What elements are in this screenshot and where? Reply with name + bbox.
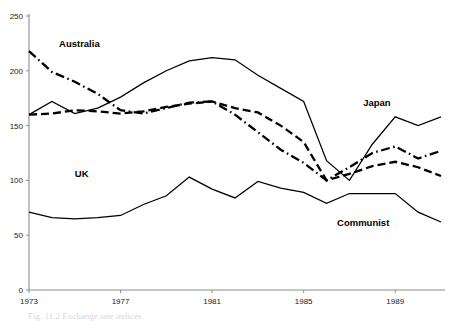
x-tick-label: 1981 xyxy=(203,297,221,306)
y-tick-label: 150 xyxy=(10,122,24,131)
x-tick-label: 1973 xyxy=(20,297,38,306)
x-tick-label: 1977 xyxy=(112,297,130,306)
series-label-communist: Communist xyxy=(337,217,390,228)
y-tick-label: 100 xyxy=(10,176,24,185)
y-tick-label: 50 xyxy=(14,231,23,240)
series-line-communist xyxy=(29,177,441,222)
y-tick-label: 250 xyxy=(10,12,24,21)
series-line-uk xyxy=(29,101,441,180)
series-label-australia: Australia xyxy=(59,38,100,49)
chart-container: 05010015020025019731977198119851989Japan… xyxy=(0,0,450,321)
series-label-japan: Japan xyxy=(363,97,391,108)
line-chart: 05010015020025019731977198119851989Japan… xyxy=(0,0,450,321)
y-tick-label: 200 xyxy=(10,67,24,76)
series-line-australia xyxy=(29,51,441,180)
series-label-uk: UK xyxy=(75,168,89,179)
y-tick-label: 0 xyxy=(19,286,24,295)
x-tick-label: 1985 xyxy=(295,297,313,306)
x-tick-label: 1989 xyxy=(386,297,404,306)
figure-caption: Fig. 11.2 Exchange rate indices xyxy=(28,311,141,321)
series-line-japan xyxy=(29,58,441,181)
